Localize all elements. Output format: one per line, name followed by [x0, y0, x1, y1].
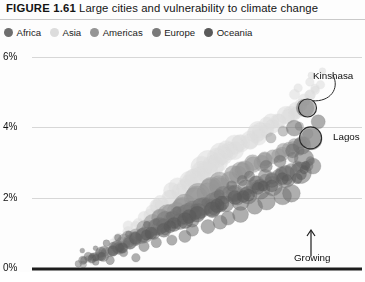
legend-swatch-icon	[90, 28, 99, 37]
figure-footer-space	[0, 272, 365, 282]
legend-item-africa[interactable]: Africa	[4, 27, 41, 38]
y-axis-tick-label: 0%	[3, 262, 17, 273]
legend-label: Americas	[103, 27, 143, 38]
legend-swatch-icon	[152, 28, 161, 37]
legend-item-americas[interactable]: Americas	[90, 27, 142, 38]
legend-label: Africa	[17, 27, 42, 38]
annotation-label-lagos: Lagos	[333, 131, 360, 142]
y-axis-tick-label: 4%	[3, 121, 17, 132]
figure-title: FIGURE 1.61Large cities and vulnerabilit…	[6, 2, 361, 20]
y-axis-tick-label: 6%	[3, 51, 17, 62]
scatter-plot-canvas	[0, 44, 365, 282]
figure-title-text: Large cities and vulnerability to climat…	[79, 2, 318, 14]
legend-item-asia[interactable]: Asia	[50, 27, 81, 38]
legend-label: Oceania	[217, 27, 253, 38]
legend-item-oceania[interactable]: Oceania	[204, 27, 252, 38]
legend-item-europe[interactable]: Europe	[152, 27, 195, 38]
annotation-label-growing: Growing	[294, 252, 330, 263]
figure-container: FIGURE 1.61Large cities and vulnerabilit…	[0, 0, 365, 282]
plot-area	[0, 44, 365, 282]
legend-swatch-icon	[50, 28, 59, 37]
legend-label: Asia	[63, 27, 82, 38]
legend-swatch-icon	[4, 28, 13, 37]
title-divider	[0, 19, 365, 20]
y-axis-tick-label: 2%	[3, 192, 17, 203]
legend-label: Europe	[164, 27, 195, 38]
annotation-label-kinshasa: Kinshasa	[313, 70, 353, 81]
legend-swatch-icon	[204, 28, 213, 37]
legend: AfricaAsiaAmericasEuropeOceania	[4, 24, 261, 40]
figure-number: FIGURE 1.61	[6, 2, 76, 14]
